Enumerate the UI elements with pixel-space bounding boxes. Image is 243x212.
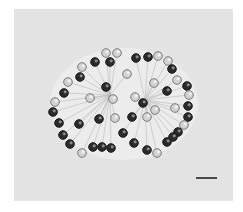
cell [89, 143, 98, 152]
cell [95, 115, 104, 124]
micrograph-frame [14, 9, 233, 201]
cell [144, 53, 153, 62]
cell [51, 98, 60, 107]
cell [98, 143, 107, 152]
cell [164, 57, 173, 66]
cell [184, 102, 193, 111]
cell [55, 119, 64, 128]
cell [185, 91, 194, 100]
cell [128, 113, 137, 122]
cell [139, 99, 148, 108]
cell [59, 131, 68, 140]
cell [173, 76, 182, 85]
cell [180, 121, 189, 130]
cell [113, 49, 122, 58]
cell [49, 108, 58, 117]
cell [154, 52, 163, 61]
cell [78, 63, 87, 72]
cell [119, 129, 128, 138]
cell [86, 94, 95, 103]
cell [143, 113, 152, 122]
cell [102, 83, 111, 92]
cell [109, 95, 118, 104]
cell [151, 106, 160, 115]
cell [91, 58, 100, 67]
scale-bar [196, 177, 217, 179]
cell [184, 113, 193, 122]
cell [153, 149, 162, 158]
cell [64, 78, 73, 87]
cell [163, 87, 172, 96]
cell [106, 58, 115, 67]
cell [75, 120, 84, 129]
cell [123, 70, 132, 79]
cell [143, 146, 152, 155]
cell [66, 140, 75, 149]
cell [150, 79, 159, 88]
cell [102, 49, 111, 58]
cell [78, 149, 87, 158]
cell [168, 65, 177, 74]
cell [107, 144, 116, 153]
cell [130, 139, 139, 148]
cell [132, 54, 141, 63]
colony-graphic [14, 9, 233, 201]
cell [60, 89, 69, 98]
cell [183, 82, 192, 91]
cell [169, 133, 178, 142]
cell [171, 104, 180, 113]
cell [131, 93, 140, 102]
cell [76, 73, 85, 82]
cell [111, 114, 120, 123]
